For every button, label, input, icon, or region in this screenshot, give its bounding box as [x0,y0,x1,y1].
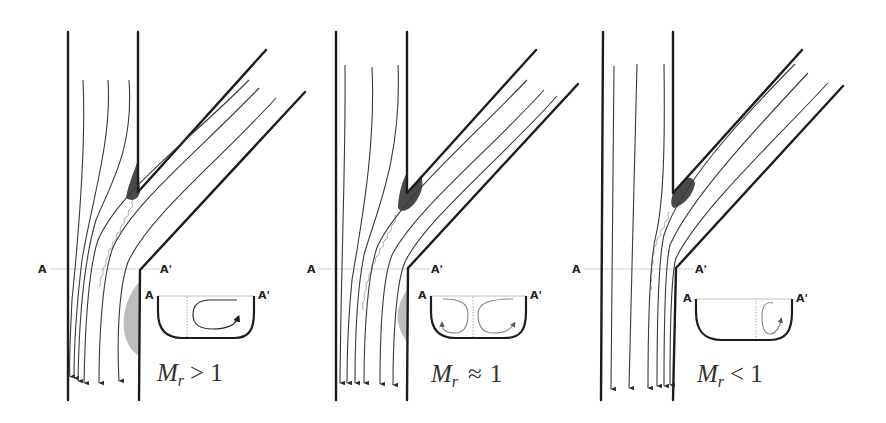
vortex-arrow-right [478,299,514,333]
streamline [347,67,373,383]
inset-label-a-prime: A' [530,289,542,302]
mixing-interface [362,215,396,310]
junction-flow-diagram: A A' A A' Mr>1 [0,0,886,423]
vortex-arrow-right [762,303,781,334]
cross-section-inset: A A' [683,292,808,340]
panel-mr-less-than-1: A A' A A' Mr<1 [572,32,843,400]
branch-lower-wall [407,84,578,400]
cross-section-inset: A A' [418,289,542,338]
streamline [629,64,637,388]
streamline [70,80,84,377]
condition-label: Mr<1 [696,360,763,390]
main-channel-right-wall-upper [673,32,802,193]
section-label-a-prime: A' [431,263,443,276]
condition-label: Mr>1 [156,359,223,389]
streamline [393,96,557,385]
streamline [648,64,664,388]
section-label-a: A [572,263,581,276]
panel-mr-greater-than-1: A A' A A' Mr>1 [38,32,305,400]
separation-zone-lower [397,290,407,342]
inset-label-a: A [683,292,692,305]
inset-label-a-prime: A' [796,292,808,305]
vortex-arrow-left [442,299,468,333]
section-label-a: A [38,263,47,276]
panel-mr-approx-1: A A' A A' Mr≈1 [307,32,578,400]
section-label-a-prime: A' [695,263,707,276]
separation-zone-lower [124,282,139,356]
main-channel-left-wall [601,32,603,400]
cross-section-inset: A A' [145,289,270,338]
inset-label-a: A [418,289,427,302]
vortex-arrow-clockwise [193,300,238,329]
branch-lower-wall [139,92,305,400]
inset-channel-section [696,299,792,340]
inset-label-a-prime: A' [258,289,270,302]
section-label-a-prime: A' [160,263,172,276]
mixing-interface [99,200,133,287]
inset-channel-section [158,296,254,338]
main-channel-right-wall-upper [138,32,266,192]
streamline [380,90,544,384]
main-channel-right-wall-upper [407,32,536,193]
inset-label-a: A [145,289,154,302]
streamline [657,64,795,386]
streamline [340,65,345,383]
streamline [611,66,614,389]
section-label-a: A [307,263,316,276]
branch-lower-wall [673,86,843,400]
condition-label: Mr≈1 [430,360,502,390]
separation-zone-upper [398,172,422,211]
